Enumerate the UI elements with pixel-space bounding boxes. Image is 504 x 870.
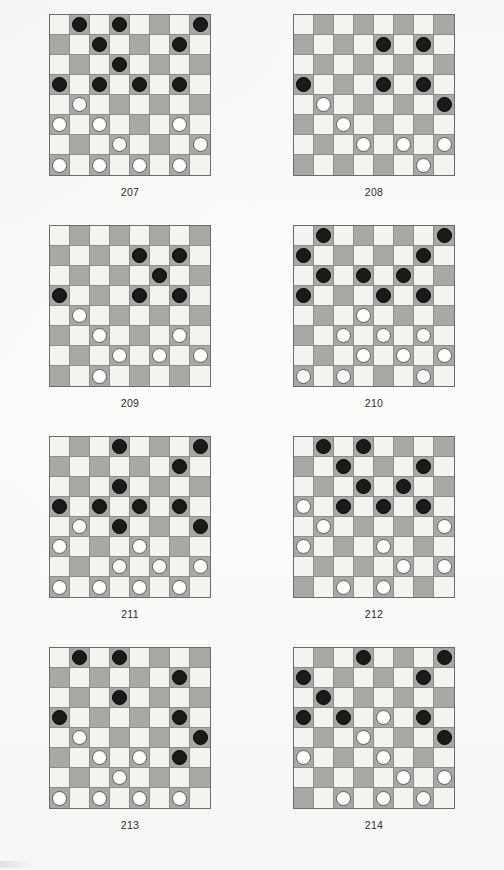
board-square[interactable] — [130, 768, 150, 788]
board-square[interactable] — [90, 788, 110, 808]
board-square[interactable] — [394, 728, 414, 748]
white-piece[interactable] — [336, 580, 351, 595]
board-square[interactable] — [90, 226, 110, 246]
board-square[interactable] — [90, 688, 110, 708]
black-piece[interactable] — [356, 439, 371, 454]
board-square[interactable] — [110, 748, 130, 768]
board-square[interactable] — [170, 75, 190, 95]
black-piece[interactable] — [356, 650, 371, 665]
board-square[interactable] — [190, 788, 210, 808]
board-square[interactable] — [150, 15, 170, 35]
board-square[interactable] — [190, 326, 210, 346]
board-square[interactable] — [150, 346, 170, 366]
black-piece[interactable] — [296, 77, 311, 92]
board-square[interactable] — [294, 286, 314, 306]
board-square[interactable] — [110, 577, 130, 597]
board-square[interactable] — [334, 668, 354, 688]
board-square[interactable] — [294, 246, 314, 266]
board-square[interactable] — [334, 306, 354, 326]
board-square[interactable] — [434, 648, 454, 668]
board-square[interactable] — [150, 266, 170, 286]
board-square[interactable] — [434, 15, 454, 35]
board-square[interactable] — [414, 266, 434, 286]
black-piece[interactable] — [52, 499, 67, 514]
board-square[interactable] — [110, 648, 130, 668]
board-square[interactable] — [130, 577, 150, 597]
board-square[interactable] — [130, 135, 150, 155]
board-square[interactable] — [150, 748, 170, 768]
board-square[interactable] — [414, 688, 434, 708]
board-square[interactable] — [374, 537, 394, 557]
board-square[interactable] — [170, 437, 190, 457]
white-piece[interactable] — [396, 559, 411, 574]
board-square[interactable] — [150, 648, 170, 668]
board-square[interactable] — [394, 366, 414, 386]
board-square[interactable] — [110, 688, 130, 708]
board-square[interactable] — [150, 728, 170, 748]
board-square[interactable] — [190, 115, 210, 135]
board-square[interactable] — [294, 135, 314, 155]
board-square[interactable] — [394, 246, 414, 266]
board-square[interactable] — [50, 75, 70, 95]
black-piece[interactable] — [152, 268, 167, 283]
board-square[interactable] — [50, 477, 70, 497]
board-square[interactable] — [334, 346, 354, 366]
board-square[interactable] — [294, 457, 314, 477]
white-piece[interactable] — [296, 369, 311, 384]
black-piece[interactable] — [92, 37, 107, 52]
board-square[interactable] — [110, 557, 130, 577]
board-square[interactable] — [50, 155, 70, 175]
board-square[interactable] — [70, 557, 90, 577]
board-square[interactable] — [294, 708, 314, 728]
board-square[interactable] — [314, 366, 334, 386]
board-square[interactable] — [90, 748, 110, 768]
board-square[interactable] — [190, 748, 210, 768]
board-square[interactable] — [130, 728, 150, 748]
board-square[interactable] — [414, 668, 434, 688]
board-square[interactable] — [50, 748, 70, 768]
black-piece[interactable] — [172, 670, 187, 685]
board-square[interactable] — [150, 286, 170, 306]
board-square[interactable] — [90, 517, 110, 537]
board-square[interactable] — [70, 55, 90, 75]
board-square[interactable] — [110, 768, 130, 788]
board-square[interactable] — [170, 55, 190, 75]
board-square[interactable] — [294, 768, 314, 788]
board-square[interactable] — [170, 115, 190, 135]
black-piece[interactable] — [132, 248, 147, 263]
board-square[interactable] — [314, 497, 334, 517]
board-square[interactable] — [50, 728, 70, 748]
board-square[interactable] — [190, 557, 210, 577]
board-square[interactable] — [170, 728, 190, 748]
board-square[interactable] — [190, 477, 210, 497]
board-square[interactable] — [70, 35, 90, 55]
board-square[interactable] — [90, 15, 110, 35]
board-square[interactable] — [70, 708, 90, 728]
board-square[interactable] — [394, 115, 414, 135]
board-square[interactable] — [414, 346, 434, 366]
board-square[interactable] — [354, 266, 374, 286]
board-square[interactable] — [70, 457, 90, 477]
board-square[interactable] — [110, 437, 130, 457]
board-square[interactable] — [70, 246, 90, 266]
board-square[interactable] — [354, 708, 374, 728]
board-square[interactable] — [434, 728, 454, 748]
board-square[interactable] — [314, 768, 334, 788]
black-piece[interactable] — [52, 288, 67, 303]
board-square[interactable] — [170, 346, 190, 366]
board-square[interactable] — [90, 577, 110, 597]
board-square[interactable] — [314, 346, 334, 366]
white-piece[interactable] — [92, 117, 107, 132]
white-piece[interactable] — [356, 730, 371, 745]
board-square[interactable] — [334, 768, 354, 788]
board-square[interactable] — [130, 648, 150, 668]
board-square[interactable] — [50, 346, 70, 366]
board-square[interactable] — [414, 557, 434, 577]
board-square[interactable] — [130, 557, 150, 577]
board-square[interactable] — [394, 326, 414, 346]
board-square[interactable] — [70, 477, 90, 497]
board-square[interactable] — [90, 708, 110, 728]
board-square[interactable] — [354, 728, 374, 748]
board-square[interactable] — [294, 788, 314, 808]
board-square[interactable] — [130, 788, 150, 808]
